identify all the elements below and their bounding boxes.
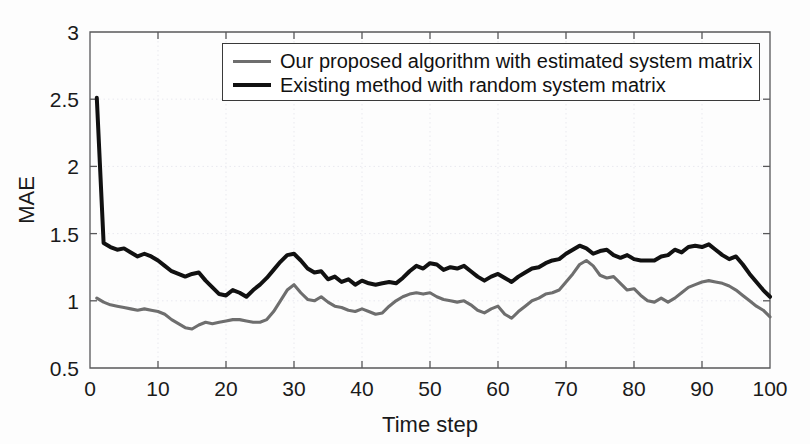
x-tick-label: 50 — [418, 377, 441, 400]
legend-item-proposed: Our proposed algorithm with estimated sy… — [233, 49, 749, 73]
series-line-existing — [97, 98, 770, 297]
x-tick-label: 70 — [554, 377, 577, 400]
proposed-line-swatch-icon — [233, 60, 271, 63]
x-tick-label: 90 — [690, 377, 713, 400]
y-tick-label: 1 — [67, 290, 79, 313]
legend-label-proposed: Our proposed algorithm with estimated sy… — [280, 50, 752, 72]
x-tick-label: 80 — [622, 377, 645, 400]
x-tick-label: 60 — [486, 377, 509, 400]
x-tick-label: 10 — [146, 377, 169, 400]
legend-label-existing: Existing method with random system matri… — [280, 74, 666, 96]
x-tick-label: 20 — [214, 377, 237, 400]
chart-legend: Our proposed algorithm with estimated sy… — [222, 43, 760, 101]
y-tick-label: 2 — [67, 155, 79, 178]
x-tick-label: 100 — [752, 377, 787, 400]
y-tick-label: 3 — [67, 21, 79, 44]
x-tick-label: 30 — [282, 377, 305, 400]
y-tick-label: 2.5 — [50, 88, 79, 111]
data-series-group — [97, 98, 770, 329]
x-tick-label: 0 — [84, 377, 96, 400]
existing-line-swatch-icon — [233, 83, 271, 87]
chart-figure: 01020304050607080901000.511.522.53 Time … — [0, 0, 810, 444]
legend-item-existing: Existing method with random system matri… — [233, 73, 749, 97]
y-tick-label: 1.5 — [50, 223, 79, 246]
x-axis-title: Time step — [382, 412, 478, 437]
y-axis-title: MAE — [14, 176, 39, 224]
y-tick-label: 0.5 — [50, 357, 79, 380]
x-tick-label: 40 — [350, 377, 373, 400]
